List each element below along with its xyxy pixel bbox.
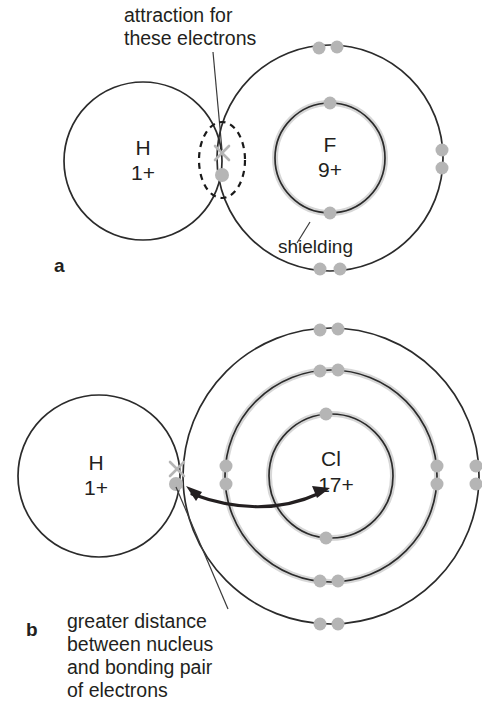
bonding-pair-b [169, 462, 184, 491]
bonding-dot-b [169, 477, 183, 491]
electron-cl-outer-bottom-right [332, 618, 345, 631]
panel-a: attraction for these electrons H 1+ F 9+… [54, 4, 449, 276]
electron-cl-outer-right-upper [470, 460, 482, 473]
hydrogen-symbol-a: H [135, 136, 150, 159]
fluorine-charge: 9+ [318, 158, 342, 181]
electron-f-inner-top [324, 97, 337, 110]
electron-cl-outer-top-left [314, 324, 327, 337]
electron-f-inner-bottom [324, 207, 337, 220]
electron-cl-mid-right-lower [431, 478, 444, 491]
electron-f-outer-bottom-left [314, 263, 327, 276]
chemistry-figure: attraction for these electrons H 1+ F 9+… [0, 0, 482, 709]
distance-arrow-curve [192, 493, 320, 507]
distance-callout-line4: of electrons [67, 679, 168, 701]
electron-f-outer-right-lower [436, 162, 449, 175]
electron-cl-inner-top [320, 408, 333, 421]
distance-callout-line1: greater distance [67, 610, 207, 632]
fluorine-symbol: F [324, 133, 337, 156]
electron-cl-mid-bottom-left [314, 575, 327, 588]
electron-cl-mid-top-right [332, 364, 345, 377]
distance-arrow-head-left [186, 486, 202, 501]
attraction-callout-line2: these electrons [124, 27, 256, 49]
electron-cl-mid-right-upper [431, 460, 444, 473]
electron-cl-inner-bottom [320, 532, 333, 545]
chlorine-symbol: Cl [321, 447, 341, 470]
electron-cl-outer-right-lower [470, 478, 482, 491]
electron-cl-mid-left-lower [220, 478, 233, 491]
electron-f-outer-bottom-right [334, 263, 347, 276]
electron-f-outer-right-upper [436, 144, 449, 157]
panel-b: H 1+ Cl 17+ [18, 323, 482, 702]
electron-cl-mid-bottom-right [332, 575, 345, 588]
electron-cl-outer-top-right [332, 323, 345, 336]
distance-leader-line [176, 487, 228, 609]
distance-arrow [186, 486, 330, 507]
distance-callout-line2: between nucleus [67, 633, 214, 655]
panel-label-b: b [26, 619, 38, 640]
hydrogen-charge-b: 1+ [84, 476, 108, 499]
electron-cl-outer-bottom-left [314, 618, 327, 631]
electron-f-outer-top-right [331, 41, 344, 54]
hydrogen-symbol-b: H [88, 451, 103, 474]
hydrogen-charge-a: 1+ [131, 161, 155, 184]
bonding-dot-a [215, 168, 229, 182]
electron-cl-mid-left-upper [220, 460, 233, 473]
distance-callout-line3: and bonding pair [67, 656, 213, 678]
attraction-callout-line1: attraction for [124, 4, 233, 26]
shielding-callout: shielding [278, 236, 353, 257]
panel-label-a: a [54, 255, 65, 276]
electron-f-outer-top-left [313, 42, 326, 55]
electron-cl-mid-top-left [314, 365, 327, 378]
